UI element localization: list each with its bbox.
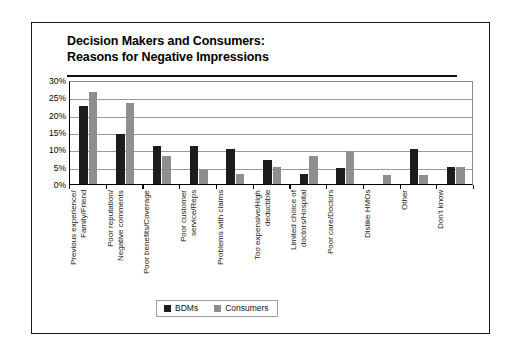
x-axis-category-label: Limited choice of doctors/Hospital	[289, 190, 326, 300]
x-axis-tick	[69, 185, 70, 189]
y-axis-tick-label: 20%	[49, 111, 66, 120]
bar-bdms[interactable]	[153, 146, 162, 184]
plot-area	[69, 81, 473, 185]
bar-bdms[interactable]	[300, 174, 309, 184]
bar-group	[116, 82, 134, 184]
bar-consumers[interactable]	[383, 175, 392, 184]
bar-series-layer	[70, 82, 472, 184]
legend-entry[interactable]: Consumers	[214, 304, 268, 313]
x-axis-tick	[473, 185, 474, 189]
legend-label: Consumers	[225, 304, 268, 313]
bar-consumers[interactable]	[199, 170, 208, 184]
bar-consumers[interactable]	[346, 151, 355, 184]
bar-consumers[interactable]	[89, 92, 98, 184]
bar-group	[336, 82, 354, 184]
bar-consumers[interactable]	[456, 167, 465, 184]
bar-consumers[interactable]	[162, 156, 171, 184]
legend-label: BDMs	[175, 304, 198, 313]
bar-bdms[interactable]	[190, 146, 199, 184]
bar-bdms[interactable]	[226, 149, 235, 184]
legend-swatch-bdms	[164, 305, 171, 312]
bar-group	[263, 82, 281, 184]
x-axis-tick	[326, 185, 327, 189]
bar-consumers[interactable]	[126, 103, 135, 184]
bar-bdms[interactable]	[410, 149, 419, 184]
bar-group	[153, 82, 171, 184]
bar-group	[447, 82, 465, 184]
y-axis-tick-labels: 30%25%20%15%10%5%0%	[32, 81, 68, 185]
x-axis-tick	[400, 185, 401, 189]
bar-consumers[interactable]	[236, 174, 245, 184]
legend-entry[interactable]: BDMs	[164, 304, 198, 313]
x-axis-tick	[289, 185, 290, 189]
bar-bdms[interactable]	[116, 134, 125, 184]
bar-bdms[interactable]	[263, 160, 272, 184]
bar-group	[300, 82, 318, 184]
y-axis-tick-label: 30%	[49, 77, 66, 86]
bar-consumers[interactable]	[309, 156, 318, 184]
x-axis-category-labels: Previous experience/ Family/FriendPoor r…	[69, 190, 473, 302]
y-axis-tick-label: 25%	[49, 94, 66, 103]
chart-legend: BDMsConsumers	[156, 300, 278, 317]
x-axis-tick	[436, 185, 437, 189]
bar-group	[373, 82, 391, 184]
x-axis-tick	[179, 185, 180, 189]
x-axis-tick	[216, 185, 217, 189]
x-axis-category-label: Problems with claims	[216, 190, 253, 300]
x-axis-category-label: Dislike HMOs	[363, 190, 400, 300]
chart-figure-frame: Decision Makers and Consumers: Reasons f…	[31, 22, 490, 334]
bar-bdms[interactable]	[447, 167, 456, 184]
bar-bdms[interactable]	[79, 106, 88, 184]
x-axis-category-label: Don't know	[436, 190, 473, 300]
x-axis-category-label: Poor benefits/Coverage	[142, 190, 179, 300]
x-axis-category-label: Poor care/Doctors	[326, 190, 363, 300]
x-axis-tick	[363, 185, 364, 189]
bar-group	[190, 82, 208, 184]
bar-bdms[interactable]	[336, 168, 345, 184]
x-axis-category-label: Previous experience/ Family/Friend	[69, 190, 106, 300]
x-axis-category-label: Poor customer service/Reps	[179, 190, 216, 300]
y-axis-tick-label: 5%	[54, 163, 66, 172]
bar-group	[410, 82, 428, 184]
x-axis-tick	[106, 185, 107, 189]
chart-plot-wrapper: 30%25%20%15%10%5%0% Previous experience/…	[32, 23, 491, 335]
legend-swatch-consumers	[214, 305, 221, 312]
x-axis-category-label: Poor reputation/ Negative comments	[106, 190, 143, 300]
bar-consumers[interactable]	[273, 167, 282, 184]
bar-group	[226, 82, 244, 184]
bar-consumers[interactable]	[419, 175, 428, 184]
x-axis-tick	[142, 185, 143, 189]
y-axis-tick-label: 10%	[49, 146, 66, 155]
x-axis-ticks	[69, 185, 473, 189]
x-axis-category-label: Too expensive/High deductible	[253, 190, 290, 300]
x-axis-tick	[253, 185, 254, 189]
y-axis-tick-label: 15%	[49, 129, 66, 138]
y-axis-tick-label: 0%	[54, 181, 66, 190]
bar-group	[79, 82, 97, 184]
x-axis-category-label: Other	[400, 190, 437, 300]
